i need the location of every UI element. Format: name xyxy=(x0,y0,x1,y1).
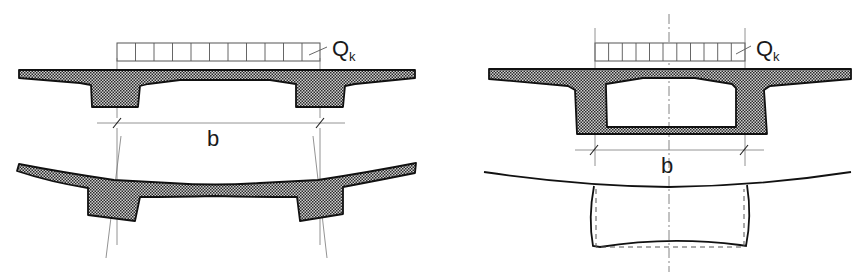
right-original-box-outline xyxy=(596,189,744,247)
right-load-block xyxy=(595,43,751,61)
left-deformed-section xyxy=(17,163,416,221)
right-undeformed-section xyxy=(489,69,851,134)
right-load-label: Q xyxy=(756,36,773,61)
right-deformed-box xyxy=(591,185,750,247)
right-dimension-label: b xyxy=(661,153,673,178)
left-load-block xyxy=(117,43,327,61)
right-panel-box-girder: Q k b xyxy=(484,14,851,272)
left-load-subscript: k xyxy=(349,49,356,64)
left-load-label: Q xyxy=(332,36,349,61)
right-load-subscript: k xyxy=(773,49,780,64)
left-panel-t-beam: Q k b xyxy=(17,36,416,258)
left-undeformed-section xyxy=(19,70,415,107)
left-dimension-label: b xyxy=(207,126,219,151)
bridge-cross-section-diagram: Q k b xyxy=(0,0,860,277)
